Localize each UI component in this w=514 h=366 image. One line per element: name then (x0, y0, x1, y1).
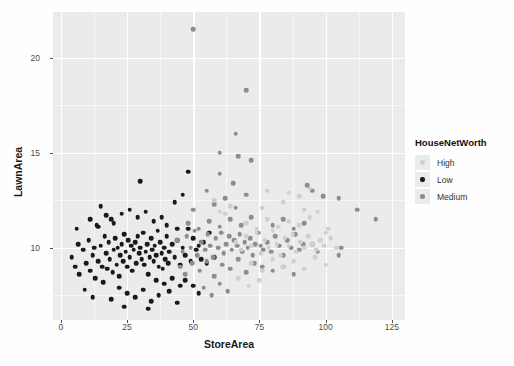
data-point (217, 171, 222, 176)
gridline-minor-y (53, 295, 405, 296)
data-point (145, 242, 150, 247)
data-point (208, 244, 213, 249)
data-point (133, 295, 138, 300)
data-point (135, 215, 140, 220)
data-point (254, 226, 259, 231)
data-point (120, 242, 125, 247)
gridline-minor-y (53, 200, 405, 201)
data-point (339, 245, 344, 250)
data-point (135, 234, 140, 239)
data-point (329, 236, 334, 241)
data-point (134, 261, 139, 266)
data-point (172, 255, 177, 260)
data-point (302, 266, 307, 271)
data-point (159, 251, 164, 256)
data-point (217, 282, 222, 287)
scatter-plot-figure: 0255075100125101520 StoreArea LawnArea H… (0, 0, 514, 366)
data-point (236, 276, 241, 281)
data-point (318, 238, 323, 243)
data-point (337, 196, 342, 201)
data-point (223, 211, 228, 216)
data-point (260, 206, 265, 211)
data-point (151, 219, 156, 224)
data-point (138, 245, 143, 250)
data-point (229, 247, 234, 252)
data-point (278, 253, 283, 258)
data-point (276, 225, 281, 230)
data-point (231, 181, 236, 186)
data-point (233, 240, 238, 245)
data-point (244, 234, 249, 239)
legend-title: HouseNetWorth (415, 137, 511, 148)
data-point (355, 207, 360, 212)
data-point (159, 215, 164, 220)
data-point (180, 249, 185, 254)
data-point (292, 272, 297, 277)
data-point (172, 200, 177, 205)
data-point (247, 283, 252, 288)
data-point (228, 204, 233, 209)
data-point (297, 194, 302, 199)
data-point (139, 257, 144, 262)
data-point (127, 207, 132, 212)
legend-dot-icon (420, 177, 424, 181)
data-point (75, 226, 80, 231)
data-point (223, 196, 228, 201)
data-point (248, 236, 253, 241)
data-point (374, 217, 379, 222)
gridline-minor-y (53, 105, 405, 106)
data-point (302, 221, 307, 226)
data-point (191, 283, 196, 288)
data-point (77, 272, 82, 277)
data-point (294, 249, 299, 254)
y-axis-label: LawnArea (12, 102, 24, 242)
data-point (138, 179, 143, 184)
data-point (281, 264, 286, 269)
data-point (102, 234, 107, 239)
data-point (120, 211, 125, 216)
data-point (244, 221, 249, 226)
data-point (141, 287, 146, 292)
data-point (101, 280, 106, 285)
data-point (206, 232, 211, 237)
data-point (175, 301, 180, 306)
data-point (302, 207, 307, 212)
data-point (96, 259, 101, 264)
data-point (198, 268, 203, 273)
data-point (243, 240, 248, 245)
data-point (270, 223, 275, 228)
legend-dot-icon (420, 194, 424, 198)
data-point (142, 263, 147, 268)
data-point (216, 245, 221, 250)
data-point (110, 270, 115, 275)
data-point (104, 213, 109, 218)
data-point (334, 245, 339, 250)
data-point (100, 264, 105, 269)
legend-dot-icon (420, 160, 424, 164)
data-point (220, 263, 225, 268)
gridline-major-y (53, 153, 405, 154)
data-point (244, 88, 249, 93)
data-point (199, 240, 204, 245)
data-point (123, 249, 128, 254)
legend-items: HighLowMedium (415, 154, 511, 205)
data-point (273, 234, 278, 239)
legend-key-swatch (415, 155, 430, 170)
data-point (154, 278, 159, 283)
data-point (292, 226, 297, 231)
data-point (258, 251, 263, 256)
data-point (251, 253, 256, 258)
data-point (114, 263, 119, 268)
x-tick-label: 125 (385, 322, 399, 332)
data-point (113, 236, 118, 241)
data-point (108, 257, 113, 262)
data-point (133, 240, 138, 245)
data-point (165, 234, 170, 239)
data-point (310, 242, 315, 247)
data-point (188, 245, 193, 250)
data-point (186, 226, 191, 231)
data-point (286, 190, 291, 195)
data-point (249, 158, 254, 163)
data-point (315, 209, 320, 214)
data-point (167, 249, 172, 254)
